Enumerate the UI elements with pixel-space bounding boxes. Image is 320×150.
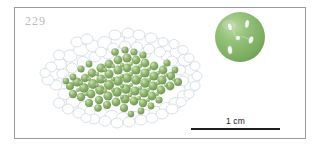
figure-plate: 229: [0, 0, 320, 150]
scale-bar-line: [191, 128, 280, 130]
scale-bar-label: 1 cm: [191, 116, 280, 126]
plate-frame: 229: [14, 7, 306, 139]
scale-bar: 1 cm: [191, 116, 280, 130]
magnified-cell: [215, 12, 265, 62]
